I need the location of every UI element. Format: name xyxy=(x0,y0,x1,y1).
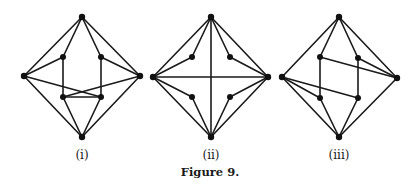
graph-vertex xyxy=(336,14,342,20)
graph-edge xyxy=(339,78,397,137)
graph-vertex xyxy=(394,75,400,81)
graph-vertex xyxy=(317,54,323,60)
graph-vertex xyxy=(355,95,361,101)
graph-edge xyxy=(282,77,320,98)
graph-edge xyxy=(63,17,82,57)
figure-caption: Figure 9. xyxy=(181,165,239,179)
graph-edge xyxy=(82,97,101,137)
graph-vertex xyxy=(137,73,143,79)
graph-edge xyxy=(339,17,358,58)
graph-edge xyxy=(153,17,211,77)
graph-vertex xyxy=(336,134,342,140)
panel-i-label: (i) xyxy=(75,148,88,162)
graph-vertex xyxy=(150,74,156,80)
graph-vertex xyxy=(21,73,27,79)
graph-vertex xyxy=(227,54,233,60)
graph-vertex xyxy=(208,14,214,20)
graph-vertex xyxy=(79,14,85,20)
graph-vertex xyxy=(60,54,66,60)
panel-ii-graph xyxy=(150,14,271,140)
graph-edge xyxy=(211,17,230,57)
graph-edge xyxy=(230,77,268,97)
panel-iii-label: (iii) xyxy=(329,148,350,162)
graph-vertex xyxy=(79,134,85,140)
panel-ii-label: (ii) xyxy=(202,148,219,162)
graph-vertex xyxy=(355,55,361,61)
graph-edge xyxy=(24,57,63,76)
graph-edge xyxy=(339,17,397,78)
graph-edge xyxy=(282,17,339,77)
graph-vertex xyxy=(227,94,233,100)
graph-edge xyxy=(230,57,268,77)
graph-edge xyxy=(153,77,211,137)
graph-edge xyxy=(211,77,268,137)
graph-vertex xyxy=(189,54,195,60)
graph-vertex xyxy=(189,94,195,100)
graph-edge xyxy=(339,98,358,137)
graph-edge xyxy=(24,17,82,76)
graph-vertex xyxy=(317,95,323,101)
graph-vertex xyxy=(208,134,214,140)
panel-iii-graph xyxy=(279,14,400,140)
graph-vertex xyxy=(60,94,66,100)
graph-edge xyxy=(211,97,230,137)
graph-edge xyxy=(192,17,211,57)
graph-edge xyxy=(320,98,339,137)
graph-edge xyxy=(282,77,339,137)
graph-vertex xyxy=(279,74,285,80)
graph-edge xyxy=(153,57,192,77)
graph-edge xyxy=(24,76,82,137)
graph-vertex xyxy=(98,54,104,60)
graph-edge xyxy=(63,97,82,137)
graph-edge xyxy=(82,17,101,57)
graph-vertex xyxy=(98,94,104,100)
graph-edge xyxy=(358,58,397,78)
graph-edge xyxy=(153,77,192,97)
graph-edge xyxy=(82,76,140,137)
graph-edge xyxy=(192,97,211,137)
graph-vertex xyxy=(265,74,271,80)
graph-edge xyxy=(101,57,140,76)
graph-edge xyxy=(320,17,339,57)
panel-i-graph xyxy=(21,14,143,140)
graph-edge xyxy=(211,17,268,77)
graph-edge xyxy=(82,17,140,76)
